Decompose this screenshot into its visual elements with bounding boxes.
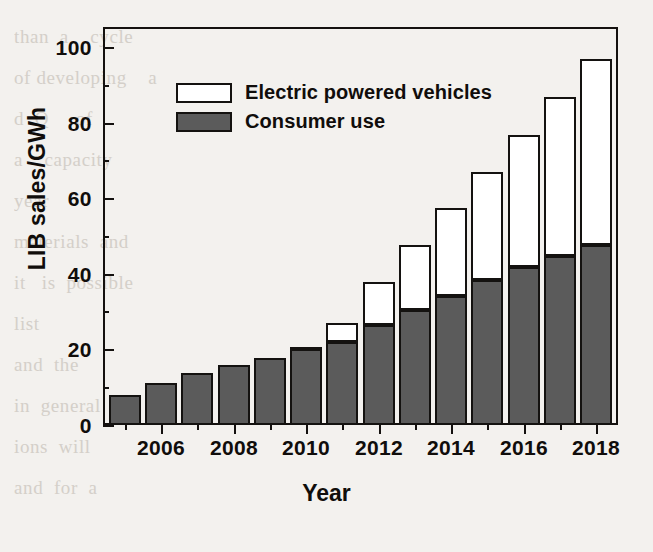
x-tick-minor-2007 (197, 425, 199, 430)
x-tick-minor-2015 (487, 425, 489, 430)
bar-segment-consumer-2007 (181, 373, 213, 425)
y-tick-minor-30 (103, 311, 109, 313)
bar-2011 (326, 323, 358, 425)
y-tick-20 (103, 349, 114, 351)
legend-entry-ev: Electric powered vehicles (176, 81, 492, 104)
bar-segment-electric-2018 (580, 59, 612, 245)
bar-2012 (363, 282, 395, 425)
bar-2009 (254, 358, 286, 425)
x-tick-minor-2005 (125, 425, 127, 430)
x-tick-label-2008: 2008 (199, 436, 269, 460)
bar-segment-consumer-2009 (254, 358, 286, 425)
bar-segment-consumer-2013 (399, 310, 431, 425)
y-tick-label-0: 0 (20, 414, 92, 438)
chart-legend: Electric powered vehicles Consumer use (176, 81, 492, 139)
bar-segment-consumer-2018 (580, 245, 612, 425)
bar-2010 (290, 347, 322, 425)
y-tick-label-60: 60 (20, 187, 92, 211)
chart-figure: LIB sales/GWh 0 20 40 60 80 100 20062008… (0, 0, 653, 552)
x-tick-minor-2009 (270, 425, 272, 430)
x-tick-2006 (161, 425, 163, 434)
legend-entry-consumer: Consumer use (176, 110, 492, 133)
x-tick-minor-2017 (560, 425, 562, 430)
y-tick-100 (103, 47, 114, 49)
bar-segment-electric-2012 (363, 282, 395, 324)
bar-2008 (218, 365, 250, 425)
legend-label-consumer-use: Consumer use (245, 110, 385, 133)
x-tick-label-2012: 2012 (344, 436, 414, 460)
y-tick-minor-10 (103, 387, 109, 389)
x-tick-2016 (524, 425, 526, 434)
x-tick-label-2006: 2006 (126, 436, 196, 460)
bar-segment-consumer-2011 (326, 342, 358, 425)
x-axis-title: Year (0, 480, 653, 507)
x-tick-minor-2013 (415, 425, 417, 430)
x-tick-2010 (306, 425, 308, 434)
bar-2017 (544, 97, 576, 425)
bar-2015 (471, 172, 503, 425)
x-tick-label-2010: 2010 (271, 436, 341, 460)
bar-2014 (435, 208, 467, 425)
y-tick-minor-70 (103, 160, 109, 162)
y-tick-40 (103, 274, 114, 276)
bar-segment-consumer-2005 (109, 395, 141, 425)
y-tick-0 (103, 425, 114, 427)
y-tick-minor-90 (103, 85, 109, 87)
x-tick-label-2014: 2014 (416, 436, 486, 460)
bar-segment-consumer-2010 (290, 349, 322, 425)
bar-segment-electric-2017 (544, 97, 576, 256)
y-tick-label-20: 20 (20, 338, 92, 362)
bar-segment-electric-2011 (326, 323, 358, 342)
bar-segment-electric-2014 (435, 208, 467, 296)
bar-2018 (580, 59, 612, 425)
legend-label-electric-powered-vehicles: Electric powered vehicles (245, 81, 492, 104)
y-tick-label-40: 40 (20, 263, 92, 287)
bar-segment-consumer-2017 (544, 256, 576, 425)
bar-2005 (109, 395, 141, 425)
y-tick-minor-50 (103, 236, 109, 238)
y-tick-label-80: 80 (20, 112, 92, 136)
bar-segment-consumer-2006 (145, 383, 177, 425)
bar-segment-consumer-2012 (363, 325, 395, 425)
y-tick-label-100: 100 (20, 36, 92, 60)
bar-2006 (145, 383, 177, 425)
x-tick-minor-2011 (342, 425, 344, 430)
legend-swatch-consumer-use (176, 112, 232, 132)
bar-2007 (181, 373, 213, 425)
bar-segment-consumer-2014 (435, 296, 467, 425)
bar-segment-electric-2013 (399, 245, 431, 310)
bar-segment-consumer-2015 (471, 280, 503, 425)
bar-segment-consumer-2016 (508, 267, 540, 425)
x-tick-2014 (451, 425, 453, 434)
bar-2016 (508, 135, 540, 425)
y-tick-80 (103, 123, 114, 125)
bar-2013 (399, 245, 431, 425)
y-tick-60 (103, 198, 114, 200)
x-tick-label-2018: 2018 (561, 436, 631, 460)
x-tick-2008 (234, 425, 236, 434)
x-tick-2012 (379, 425, 381, 434)
legend-swatch-electric-powered-vehicles (176, 83, 232, 103)
bar-segment-electric-2015 (471, 172, 503, 279)
x-tick-label-2016: 2016 (489, 436, 559, 460)
x-tick-2018 (596, 425, 598, 434)
bar-segment-consumer-2008 (218, 365, 250, 425)
bar-segment-electric-2016 (508, 135, 540, 268)
